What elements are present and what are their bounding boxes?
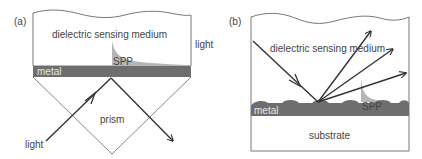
label-dielectric-a: dielectric sensing medium bbox=[52, 29, 167, 40]
incident-light-a bbox=[46, 78, 111, 141]
panel-a-tag: (a) bbox=[14, 16, 26, 27]
reflected-light-a bbox=[111, 78, 173, 141]
label-dielectric-b: dielectric sensing medium bbox=[270, 43, 385, 54]
label-spp-b: SPP bbox=[362, 101, 382, 112]
label-light-in: light bbox=[25, 139, 44, 150]
label-substrate: substrate bbox=[309, 130, 351, 141]
label-light-out: light bbox=[195, 39, 214, 50]
spr-diagram: (a) dielectric sensing medium SPP metal … bbox=[0, 0, 422, 159]
label-metal-a: metal bbox=[37, 66, 61, 77]
label-spp-a: SPP bbox=[113, 56, 133, 67]
panel-b-tag: (b) bbox=[229, 16, 241, 27]
label-prism: prism bbox=[100, 114, 124, 125]
panel-b: (b) dielectric sensing medium SPP metal … bbox=[229, 13, 409, 151]
label-metal-b: metal bbox=[254, 105, 278, 116]
panel-a: (a) dielectric sensing medium SPP metal … bbox=[14, 10, 214, 154]
